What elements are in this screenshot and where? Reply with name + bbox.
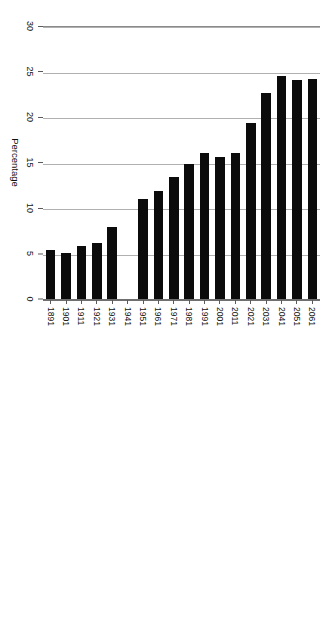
value-tick-5: 5 [25,251,43,256]
bar-1971 [169,177,179,300]
category-tick-1921: 1921 [92,300,102,326]
tick-mark [281,300,282,304]
tick-mark [143,300,144,304]
value-tick-0: 0 [25,296,43,301]
bar-1891 [46,250,56,300]
tick-mark [158,300,159,304]
category-tick-label: 1941 [123,307,133,326]
bar-row [184,27,194,300]
bar-2011 [231,153,241,300]
chart-surface: 051015202530 Percentage 2061205120412031… [0,0,326,621]
category-tick-label: 1991 [200,307,210,326]
category-tick-1991: 1991 [200,300,210,326]
tick-mark [266,300,267,304]
value-tick-25: 25 [25,66,43,76]
bar-series [43,27,320,300]
bar-row [77,27,87,300]
bar-row [261,27,271,300]
bar-row [46,27,56,300]
value-tick-30: 30 [25,21,43,31]
category-tick-1971: 1971 [169,300,179,326]
category-tick-label: 1971 [169,307,179,326]
category-tick-label: 2011 [230,307,240,325]
category-tick-label: 2041 [277,307,287,326]
category-tick-2061: 2061 [307,300,317,326]
category-tick-2011: 2011 [230,300,240,326]
tick-mark [38,25,43,26]
category-tick-label: 1921 [92,307,102,326]
category-tick-label: 1981 [184,307,194,326]
tick-mark [38,162,43,163]
bar-2021 [246,123,256,300]
tick-mark [38,116,43,117]
value-tick-15: 15 [25,157,43,167]
category-tick-2041: 2041 [277,300,287,326]
category-tick-label: 2061 [307,307,317,326]
category-tick-1931: 1931 [107,300,117,326]
category-tick-label: 1931 [107,307,117,326]
bar-row [61,27,71,300]
bar-1931 [108,227,118,300]
category-tick-1911: 1911 [76,300,86,326]
tick-mark [173,300,174,304]
bar-row [154,27,164,300]
bar-row [108,27,118,300]
category-tick-1901: 1901 [61,300,71,326]
category-tick-2031: 2031 [261,300,271,326]
category-tick-2001: 2001 [215,300,225,326]
bar-2001 [215,157,225,300]
value-tick-label: 25 [25,66,35,76]
bar-1961 [154,191,164,300]
category-tick-1891: 1891 [46,300,56,326]
bar-2031 [261,93,271,300]
value-tick-label: 10 [25,203,35,213]
bar-row [215,27,225,300]
value-tick-label: 20 [25,112,35,122]
category-tick-label: 1911 [76,307,86,325]
category-tick-label: 1961 [153,307,163,326]
tick-mark [296,300,297,304]
bar-2051 [292,80,302,300]
chart-figure: 051015202530 Percentage 2061205120412031… [0,0,326,621]
category-tick-2051: 2051 [292,300,302,326]
bar-2061 [308,79,318,300]
tick-mark [235,300,236,304]
bar-row [169,27,179,300]
category-tick-label: 2031 [261,307,271,326]
bar-1951 [138,199,148,300]
tick-mark [189,300,190,304]
bar-2041 [277,76,287,300]
category-tick-1961: 1961 [153,300,163,326]
bar-row [308,27,318,300]
tick-mark [312,300,313,304]
tick-mark [96,300,97,304]
value-axis-title: Percentage [10,26,21,299]
category-tick-label: 1891 [46,307,56,326]
bar-1991 [200,153,210,300]
category-tick-1951: 1951 [138,300,148,326]
tick-mark [38,253,43,254]
value-tick-label: 5 [25,251,35,256]
tick-mark [219,300,220,304]
tick-mark [66,300,67,304]
tick-mark [250,300,251,304]
tick-mark [204,300,205,304]
bar-row [92,27,102,300]
category-tick-label: 2051 [292,307,302,326]
tick-mark [38,71,43,72]
category-tick-label: 1901 [61,307,71,326]
bar-1911 [77,246,87,300]
value-tick-10: 10 [25,203,43,213]
bar-1981 [184,164,194,300]
bar-row [277,27,287,300]
category-tick-label: 2021 [246,307,256,326]
bar-row [138,27,148,300]
tick-mark [81,300,82,304]
plot-area [43,26,320,300]
value-tick-20: 20 [25,112,43,122]
bar-row [123,27,133,300]
category-axis: 2061205120412031202120112001199119811971… [43,299,320,326]
bar-row [292,27,302,300]
tick-mark [38,207,43,208]
category-tick-2021: 2021 [246,300,256,326]
